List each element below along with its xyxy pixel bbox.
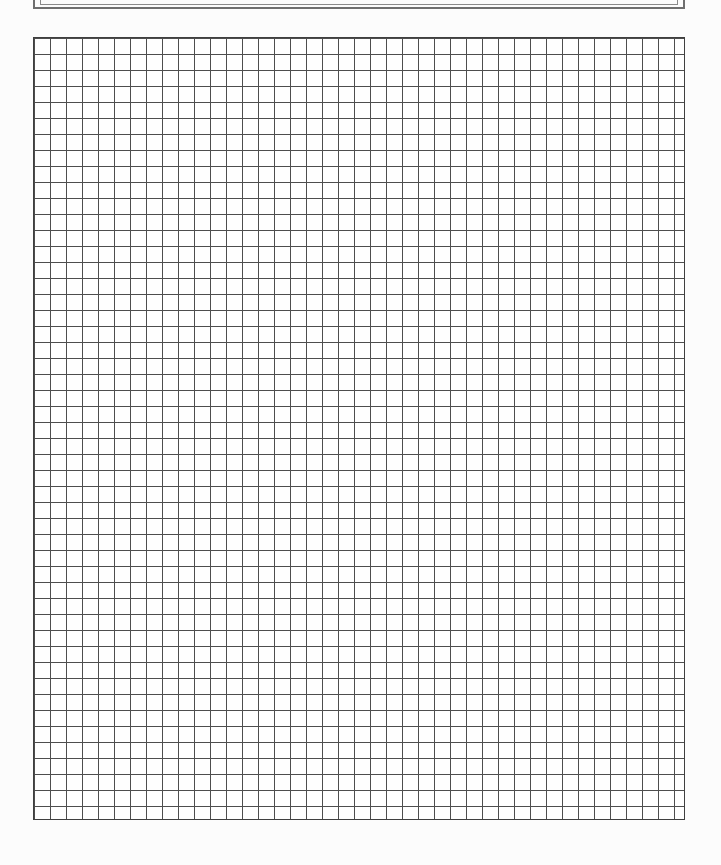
graph-paper-grid (33, 37, 685, 820)
header-input-field[interactable] (40, 0, 678, 5)
page (0, 0, 721, 865)
header-box (33, 0, 685, 9)
